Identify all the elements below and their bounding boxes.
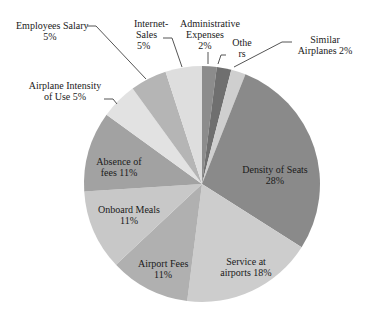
label-airplane-intensity: Airplane Intensity of Use 5% xyxy=(28,80,102,102)
label-airport-fees: Airport Fees 11% xyxy=(138,258,188,280)
label-internet-sales-name-2: Sales xyxy=(134,29,174,40)
label-service-at-airports-name-1: Service at xyxy=(218,256,274,267)
label-admin-expenses-name-1: Administrative xyxy=(174,18,246,29)
label-onboard-meals: Onboard Meals 11% xyxy=(98,204,160,226)
label-employees-salary-pct: 5% xyxy=(16,31,84,42)
label-airplane-intensity-name-2: of Use 5% xyxy=(28,91,102,102)
label-density-of-seats-pct: 28% xyxy=(242,175,308,186)
label-similar-airplanes-name-2: Airplanes 2% xyxy=(292,45,358,56)
label-density-of-seats-name: Density of Seats xyxy=(242,164,308,175)
leader-line-others xyxy=(218,55,226,64)
label-onboard-meals-pct: 11% xyxy=(98,215,160,226)
label-service-at-airports: Service at airports 18% xyxy=(218,256,274,278)
label-absence-of-fees-name-1: Absence of xyxy=(90,156,148,167)
label-others-name-2: rs xyxy=(230,48,254,59)
label-internet-sales: Internet- Sales 5% xyxy=(134,18,174,51)
label-density-of-seats: Density of Seats 28% xyxy=(242,164,308,186)
label-airport-fees-pct: 11% xyxy=(138,269,188,280)
label-airplane-intensity-name-1: Airplane Intensity xyxy=(28,80,102,91)
label-absence-of-fees-name-2: fees 11% xyxy=(90,167,148,178)
leader-line-airplane-intensity xyxy=(104,99,117,104)
label-onboard-meals-name: Onboard Meals xyxy=(98,204,160,215)
label-employees-salary-name: Employees Salary xyxy=(16,20,84,31)
label-absence-of-fees: Absence of fees 11% xyxy=(90,156,148,178)
label-similar-airplanes-name-1: Similar xyxy=(292,34,358,45)
label-service-at-airports-name-2: airports 18% xyxy=(218,267,274,278)
label-others-name-1: Othe xyxy=(230,37,254,48)
label-internet-sales-pct: 5% xyxy=(134,40,174,51)
label-employees-salary: Employees Salary 5% xyxy=(16,20,84,42)
label-internet-sales-name-1: Internet- xyxy=(134,18,174,29)
label-airport-fees-name: Airport Fees xyxy=(138,258,188,269)
label-others: Othe rs xyxy=(230,37,254,59)
label-similar-airplanes: Similar Airplanes 2% xyxy=(292,34,358,56)
